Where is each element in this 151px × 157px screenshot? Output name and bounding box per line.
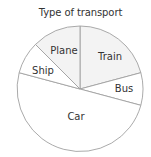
slice-label-car: Car	[67, 111, 85, 122]
slice-label-plane: Plane	[50, 45, 77, 56]
slice-label-bus: Bus	[115, 83, 133, 94]
slice-label-train: Train	[97, 51, 122, 62]
pie-chart: TrainBusCarShipPlane	[0, 0, 151, 157]
slice-label-ship: Ship	[32, 65, 54, 76]
